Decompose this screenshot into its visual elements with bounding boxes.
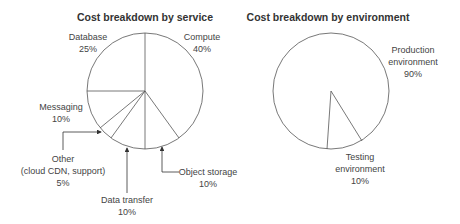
svg-text:environment: environment [388, 57, 438, 67]
svg-text:environment: environment [335, 164, 385, 174]
label-object-storage: Object storage 10% [162, 147, 237, 189]
svg-text:10%: 10% [199, 179, 217, 189]
environment-pie-chart: Cost breakdown by environment Production… [247, 11, 439, 186]
service-chart-title: Cost breakdown by service [77, 11, 213, 23]
svg-text:40%: 40% [193, 44, 211, 54]
svg-text:10%: 10% [118, 207, 136, 217]
svg-text:25%: 25% [79, 44, 97, 54]
svg-text:Object storage: Object storage [179, 167, 238, 177]
service-pie-chart: Cost breakdown by service Compute 40% Da… [21, 11, 238, 217]
svg-text:Messaging: Messaging [39, 102, 83, 112]
svg-text:90%: 90% [404, 69, 422, 79]
label-testing: Testing environment 10% [335, 152, 385, 186]
label-messaging: Messaging 10% [39, 102, 83, 124]
svg-text:Testing: Testing [346, 152, 375, 162]
svg-text:Compute: Compute [184, 32, 221, 42]
label-database: Database 25% [69, 32, 108, 54]
svg-text:Data transfer: Data transfer [101, 195, 153, 205]
environment-pie-dividers [327, 91, 362, 149]
svg-text:10%: 10% [52, 114, 70, 124]
svg-text:10%: 10% [351, 176, 369, 186]
svg-text:Other: Other [52, 154, 75, 164]
svg-text:Database: Database [69, 32, 108, 42]
svg-text:5%: 5% [56, 178, 69, 188]
charts-canvas: Cost breakdown by service Compute 40% Da… [0, 0, 460, 224]
svg-text:(cloud CDN, support): (cloud CDN, support) [21, 166, 106, 176]
svg-text:Production: Production [391, 45, 434, 55]
label-compute: Compute 40% [184, 32, 221, 54]
environment-chart-title: Cost breakdown by environment [247, 11, 410, 23]
label-other: Other (cloud CDN, support) 5% [21, 132, 106, 188]
label-production: Production environment 90% [388, 45, 438, 79]
label-data-transfer: Data transfer 10% [101, 148, 153, 217]
